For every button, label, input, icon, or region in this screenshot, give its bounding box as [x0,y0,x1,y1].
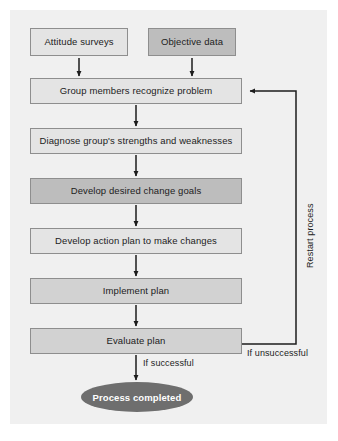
node-label: Group members recognize problem [60,86,213,96]
node-label: Develop action plan to make changes [55,236,217,246]
edge-label-if-successful: If successful [143,358,194,368]
flowchart-figure: Attitude surveys Objective data Group me… [0,0,338,441]
edge-label-text: Restart process [305,203,315,268]
node-objective-data: Objective data [148,28,236,56]
node-label: Implement plan [103,286,169,296]
node-develop-change-goals: Develop desired change goals [30,178,242,204]
node-label: Diagnose group's strengths and weaknesse… [40,136,233,146]
node-label: Attitude surveys [44,37,113,47]
edge-label-if-unsuccessful: If unsuccessful [247,348,308,358]
node-label: Process completed [93,392,182,403]
node-attitude-surveys: Attitude surveys [30,28,128,56]
node-develop-action-plan: Develop action plan to make changes [30,228,242,254]
node-diagnose-strengths-weaknesses: Diagnose group's strengths and weaknesse… [30,128,242,154]
node-implement-plan: Implement plan [30,278,242,304]
node-recognize-problem: Group members recognize problem [30,78,242,104]
node-label: Objective data [161,37,223,47]
node-evaluate-plan: Evaluate plan [30,328,242,354]
node-label: Evaluate plan [107,336,166,346]
edge-label-restart-process: Restart process [305,203,315,268]
node-process-completed: Process completed [81,382,193,412]
edge-label-text: If unsuccessful [247,348,308,358]
edge-label-text: If successful [143,358,194,368]
node-label: Develop desired change goals [71,186,202,196]
